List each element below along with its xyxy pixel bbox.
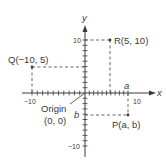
point-r-label: R(5, 10)	[114, 35, 148, 46]
point-p-label: P(a, b)	[112, 119, 141, 130]
origin-coords-label: (0, 0)	[44, 115, 66, 126]
point-p-dot	[127, 114, 130, 117]
a-marker-label: a	[124, 80, 129, 91]
y-axis-label: y	[81, 12, 88, 23]
y-axis-arrow-icon	[83, 25, 88, 32]
point-q: Q(−10, 5)	[8, 54, 85, 93]
y-tick-label-10: 10	[73, 37, 81, 44]
x-tick-label-neg10: −10	[24, 98, 36, 105]
y-axis: y 10 −10	[68, 12, 88, 157]
coordinate-plane: x −10 10 y 10 −10 R(5, 10) Q(−10, 5) P(a…	[0, 0, 166, 166]
point-q-label: Q(−10, 5)	[8, 54, 48, 65]
x-tick-label-10: 10	[133, 98, 141, 105]
point-q-dot	[31, 66, 34, 69]
point-r-dot	[109, 39, 112, 42]
x-axis-arrow-icon	[149, 91, 156, 96]
y-tick-label-neg10: −10	[68, 143, 80, 150]
point-r: R(5, 10)	[85, 35, 148, 93]
x-axis-label: x	[156, 87, 163, 98]
origin-label: Origin	[41, 103, 66, 114]
b-marker-label: b	[74, 109, 79, 120]
